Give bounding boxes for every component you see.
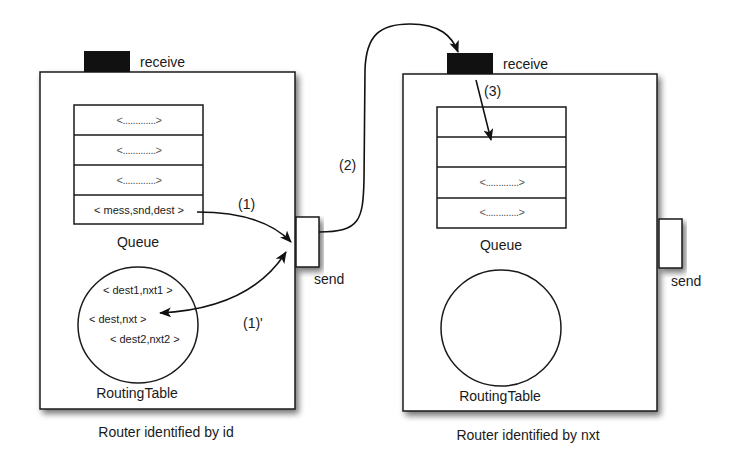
send-label-nxt: send bbox=[671, 273, 701, 289]
table-entry-id-0: < dest1,nxt1 > bbox=[103, 284, 173, 297]
router-caption-nxt: Router identified by nxt bbox=[456, 427, 599, 443]
queue-row-nxt-3: <.............> bbox=[479, 206, 524, 219]
receive-label-id: receive bbox=[140, 54, 185, 70]
table-entry-id-1: < dest,nxt > bbox=[89, 313, 146, 326]
send-port-nxt bbox=[659, 219, 682, 268]
queue-row-id-2: <.............> bbox=[116, 174, 161, 187]
send-port-id bbox=[296, 217, 319, 267]
router-caption-id: Router identified by id bbox=[98, 424, 233, 440]
queue-row-id-0: <.............> bbox=[116, 114, 161, 127]
table-label-id: RoutingTable bbox=[96, 385, 178, 401]
queue-row-id-3: < mess,snd,dest > bbox=[94, 204, 184, 217]
step-label-1-prime: (1)' bbox=[243, 315, 263, 331]
send-label-id: send bbox=[314, 271, 344, 287]
step-label-2: (2) bbox=[339, 157, 356, 173]
receive-port-nxt bbox=[447, 53, 493, 74]
step-label-1: (1) bbox=[238, 196, 255, 212]
queue-row-nxt-2: <.............> bbox=[479, 176, 524, 189]
queue-label-id: Queue bbox=[117, 234, 159, 250]
queue-row-id-1: <.............> bbox=[116, 144, 161, 157]
table-label-nxt: RoutingTable bbox=[459, 388, 541, 404]
receive-label-nxt: receive bbox=[503, 56, 548, 72]
queue-label-nxt: Queue bbox=[480, 237, 522, 253]
step-label-3: (3) bbox=[484, 83, 501, 99]
table-entry-id-2: < dest2,nxt2 > bbox=[110, 333, 180, 346]
receive-port-id bbox=[84, 51, 130, 72]
